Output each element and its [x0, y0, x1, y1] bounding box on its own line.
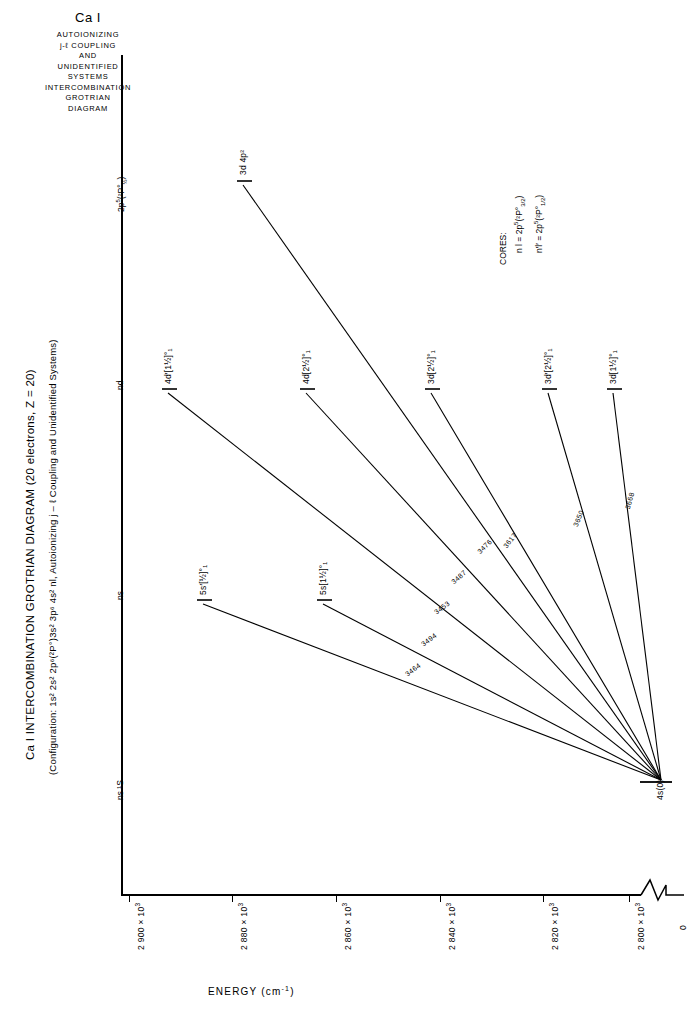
axis-tick-5 — [629, 894, 630, 902]
transition-5s — [323, 604, 661, 780]
state-label-5sp: 5s′[½]°₁ — [198, 565, 208, 595]
wavelength-3668: 3668 — [624, 491, 635, 509]
wavelength-3464: 3464 — [404, 662, 422, 678]
header-line-6: GROTRIAN — [18, 93, 158, 104]
transition-3d4p2 — [243, 185, 661, 780]
axis-tick-4 — [543, 894, 544, 902]
axis-tick-label-0: 2 900 × 103 — [134, 903, 146, 950]
state-label-4dp: 4d′[1½]°₁ — [163, 348, 173, 384]
state-label-3dp: 3d′[2½]°₁ — [543, 348, 553, 384]
cores-item-1: n′l′ = 2p5(²P°1/2) — [530, 195, 550, 253]
main-title: Ca I INTERCOMBINATION GROTRIAN DIAGRAM (… — [24, 369, 36, 760]
axis-tick-label-4: 2 820 × 103 — [548, 903, 560, 950]
axis-tick-0 — [129, 894, 130, 902]
header-line-1: j-ℓ COUPLING — [18, 41, 158, 52]
header-line-7: DIAGRAM — [18, 104, 158, 115]
cores-annotation: CORES: n l = 2p5(²P°3/2) n′l′ = 2p5(²P°1… — [497, 195, 549, 265]
transition-4d — [306, 393, 661, 780]
state-label-4d: 4d[2½]°₁ — [301, 350, 311, 384]
wavelength-3494: 3494 — [420, 632, 438, 648]
subtitle: (Configuration: 1s² 2s² 2p⁶(²P°)3s² 3p⁶ … — [47, 339, 58, 775]
header-line-0: AUTOIONIZING — [18, 30, 158, 41]
axis-break-icon — [641, 880, 684, 900]
header-line-4: SYSTEMS — [18, 72, 158, 83]
axis-tick-2 — [336, 894, 337, 902]
energy-axis — [121, 894, 641, 896]
column-label-ns-1s: ns ¹S — [115, 780, 125, 800]
column-label-nd: nd — [115, 381, 125, 390]
column-label-2p5: 2p5(²P°½) — [115, 177, 128, 212]
transition-3d — [431, 393, 661, 780]
cores-item-0: n l = 2p5(²P°3/2) — [510, 195, 530, 253]
wavelength-3617: 3617 — [502, 531, 518, 549]
header-line-2: AND — [18, 51, 158, 62]
wavelength-3476: 3476 — [476, 538, 493, 555]
wavelength-3650: 3650 — [572, 509, 585, 528]
state-label-3d1h: 3d[1½]°₁ — [608, 350, 618, 384]
state-label-ground: 4s(0) — [655, 780, 665, 800]
wavelength-3453: 3453 — [433, 600, 451, 616]
axis-tick-label-3: 2 840 × 103 — [445, 903, 457, 950]
axis-tick-1 — [232, 894, 233, 902]
header-block: Ca I AUTOIONIZING j-ℓ COUPLING AND UNIDE… — [18, 10, 158, 114]
axis-tick-label-2: 2 860 × 103 — [341, 903, 353, 950]
state-label-3d: 3d[2½]°₁ — [426, 350, 436, 384]
axis-break-and-levels — [0, 0, 690, 1009]
wavelength-3487: 3487 — [450, 569, 468, 586]
header-line-5: INTERCOMBINATION — [18, 83, 158, 94]
cores-heading: CORES: — [497, 195, 510, 265]
column-label-ns: ns — [115, 591, 125, 600]
state-label-3d4p2: 3d 4p² — [238, 150, 248, 175]
axis-tick-label-5: 2 800 × 103 — [634, 903, 646, 950]
transition-3dp — [548, 393, 661, 780]
header-line-3: UNIDENTIFIED — [18, 62, 158, 73]
transition-5sp — [203, 604, 661, 780]
axis-zero-label: 0 — [678, 925, 688, 930]
transition-3d1h — [613, 393, 661, 780]
axis-tick-label-1: 2 880 × 103 — [237, 903, 249, 950]
header-title: Ca I — [18, 10, 158, 25]
state-label-5s: 5s[1½]°₁ — [318, 562, 328, 595]
energy-axis-title: ENERGY (cm-1) — [208, 985, 295, 997]
axis-tick-3 — [440, 894, 441, 902]
transition-4dp — [168, 393, 661, 780]
